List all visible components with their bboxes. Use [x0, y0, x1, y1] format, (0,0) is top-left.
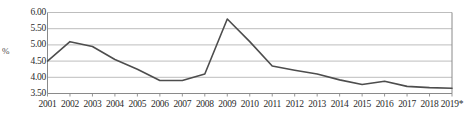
x-tick-label: 2001 [39, 100, 57, 110]
x-tick-label: 2009 [218, 100, 236, 110]
x-tick-label: 2004 [106, 100, 124, 110]
line-chart: % 3.504.004.505.005.506.00 2001200220032… [0, 0, 470, 117]
x-axis-tick-labels: 2001200220032004200520062007200820092010… [0, 0, 470, 117]
x-tick-label: 2016 [376, 100, 394, 110]
x-tick-label: 2008 [196, 100, 214, 110]
x-tick-label: 2003 [84, 100, 102, 110]
x-tick-label: 2012 [286, 100, 304, 110]
x-tick-label: 2018 [421, 100, 439, 110]
x-tick-label: 2015 [353, 100, 371, 110]
x-tick-label: 2005 [128, 100, 146, 110]
x-tick-label: 2006 [151, 100, 169, 110]
x-tick-label: 2014 [331, 100, 349, 110]
x-tick-label: 2007 [173, 100, 191, 110]
x-tick-label: 2017 [398, 100, 416, 110]
x-tick-label: 2013 [308, 100, 326, 110]
x-tick-label: 2002 [61, 100, 79, 110]
x-tick-label: 2010 [241, 100, 259, 110]
x-tick-label: 2019* [441, 100, 463, 110]
x-tick-label: 2011 [263, 100, 280, 110]
